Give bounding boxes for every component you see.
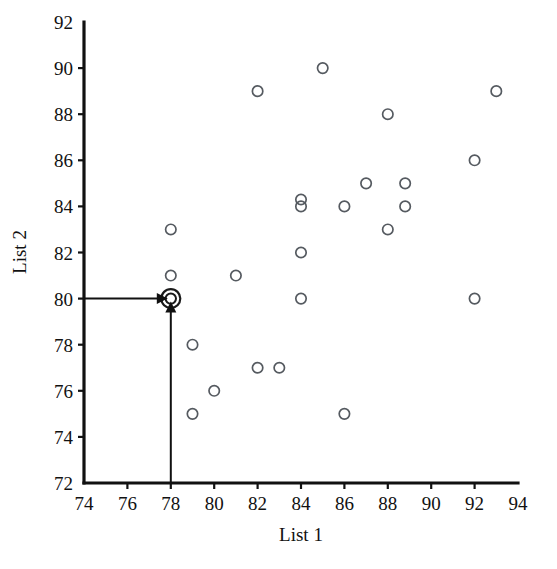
y-tick-label: 82 [54,243,73,264]
x-tick-label: 92 [465,493,484,514]
y-tick-label: 76 [54,381,73,402]
y-tick-label: 80 [54,289,73,310]
x-tick-label: 94 [509,493,529,514]
data-point-marker [339,409,349,419]
scatter-plot-figure: 7274767880828486889092 74767880828486889… [0,0,557,569]
data-point-marker [252,363,262,373]
y-tick-label: 88 [54,104,73,125]
data-point-marker [469,155,479,165]
x-tick-label: 90 [422,493,441,514]
data-point-marker [469,293,479,303]
x-tick-label: 86 [335,493,354,514]
y-tick-label: 74 [54,427,74,448]
data-point-marker [231,270,241,280]
data-point-marker [361,178,371,188]
data-point-marker [274,363,284,373]
x-axis-title: List 1 [279,524,323,545]
x-tick-label: 88 [378,493,397,514]
annotation-layer [84,293,176,483]
axis-group [84,22,518,483]
data-point-marker [491,86,501,96]
x-tick-label: 80 [205,493,224,514]
x-value-pointer [165,302,176,483]
x-tick-label: 84 [292,493,312,514]
data-point-marker [296,293,306,303]
x-tick-label: 74 [75,493,95,514]
data-point-marker [166,224,176,234]
y-tick-label: 84 [54,196,74,217]
x-tick-label: 82 [248,493,267,514]
data-point-marker [187,340,197,350]
data-point-marker [296,194,306,204]
data-point-layer [161,63,501,419]
y-axis-title: List 2 [9,230,30,274]
data-point-marker [166,270,176,280]
x-axis-tick-labels: 7476788082848688909294 [75,493,529,514]
data-point-marker [383,224,393,234]
y-tick-label: 78 [54,335,73,356]
data-point-marker [318,63,328,73]
scatter-plot-canvas: 7274767880828486889092 74767880828486889… [0,0,557,569]
y-tick-label: 72 [54,473,73,494]
y-tick-label: 86 [54,150,73,171]
data-point-marker [400,178,410,188]
data-point-marker [339,201,349,211]
data-point-marker [252,86,262,96]
y-tick-label: 90 [54,58,73,79]
data-point-marker [400,201,410,211]
x-tick-label: 78 [161,493,180,514]
data-point-marker [187,409,197,419]
y-tick-label: 92 [54,12,73,33]
y-value-pointer [84,293,168,304]
data-point-marker [209,386,219,396]
y-axis-tick-labels: 7274767880828486889092 [54,12,74,494]
x-tick-label: 76 [118,493,137,514]
data-point-marker [383,109,393,119]
data-point-marker [296,247,306,257]
